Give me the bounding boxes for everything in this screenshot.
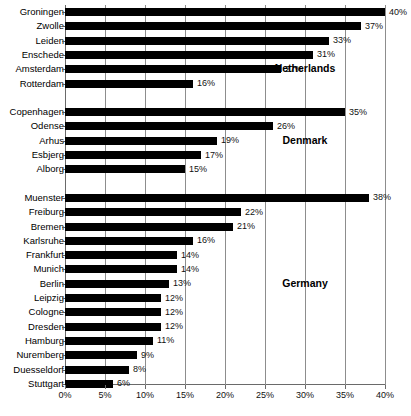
bar-value-label: 12% [165,319,183,333]
category-label: Nuremberg [0,348,64,362]
group-label-germany: Germany [282,277,328,289]
bar-value-label: 26% [277,119,295,133]
bar-row: 31% [65,48,385,62]
bar-value-label: 13% [173,276,191,290]
y-tick [62,355,65,356]
bar-row: 40% [65,5,385,19]
bar-row: 16% [65,234,385,248]
bar-chart: GroningenZwolleLeidenEnschedeAmsterdamRo… [0,0,411,416]
bar [65,208,241,216]
bar [65,151,201,159]
x-axis-tick-label: 20% [205,390,245,400]
bar-value-label: 22% [245,205,263,219]
x-axis-tick-mark [65,385,66,389]
bar-row: 19% [65,134,385,148]
category-label: Odense [0,119,64,133]
x-axis-tick-label: 30% [285,390,325,400]
y-tick [62,12,65,13]
bar [65,337,153,345]
bar [65,366,129,374]
bar [65,8,385,16]
bar-row: 14% [65,248,385,262]
bar-value-label: 21% [237,219,255,233]
y-tick [62,312,65,313]
x-axis-tick-mark [345,385,346,389]
y-tick [62,84,65,85]
bar-value-label: 6% [117,376,130,390]
bar-row: 12% [65,291,385,305]
y-tick [62,241,65,242]
bar-value-label: 8% [133,362,146,376]
x-axis-tick-label: 0% [45,390,85,400]
category-label: Alborg [0,162,64,176]
x-axis-tick-label: 5% [85,390,125,400]
bar-row: 22% [65,205,385,219]
category-label: Munich [0,262,64,276]
bar-row: 27% [65,62,385,76]
y-tick [62,212,65,213]
bar [65,22,361,30]
x-axis-tick-mark [305,385,306,389]
bar [65,351,137,359]
category-label: Arhus [0,134,64,148]
y-tick [62,370,65,371]
category-label: Frankfurt [0,248,64,262]
bar-value-label: 40% [389,5,407,19]
bar [65,37,329,45]
bar-row: 33% [65,34,385,48]
bar-row: 13% [65,277,385,291]
bar [65,108,345,116]
category-label: Groningen [0,5,64,19]
bar [65,280,169,288]
bar [65,51,313,59]
bar [65,223,233,231]
bar-row: 37% [65,19,385,33]
bar-value-label: 15% [189,162,207,176]
x-axis-tick-label: 10% [125,390,165,400]
y-tick [62,298,65,299]
y-tick [62,55,65,56]
category-label: Zwolle [0,19,64,33]
bar-value-label: 31% [317,47,335,61]
y-tick [62,327,65,328]
bar-row: 12% [65,305,385,319]
y-tick [62,341,65,342]
category-label: Stuttgart [0,377,64,391]
y-tick [62,126,65,127]
x-axis-tick-mark [385,385,386,389]
x-axis-tick-label: 35% [325,390,365,400]
bar-value-label: 9% [141,348,154,362]
category-label: Dresden [0,320,64,334]
bar-value-label: 38% [373,190,391,204]
bar [65,237,193,245]
x-axis-tick-mark [145,385,146,389]
plot-area: 40%37%33%31%27%16%35%26%19%17%15%38%22%2… [65,5,385,385]
category-label: Cologne [0,305,64,319]
bar [65,251,177,259]
bar-row: 14% [65,262,385,276]
bar-row: 21% [65,220,385,234]
bar-value-label: 37% [365,19,383,33]
bar-value-label: 12% [165,305,183,319]
category-label: Esbjerg [0,148,64,162]
bar [65,137,217,145]
bar-row: 16% [65,77,385,91]
y-tick [62,227,65,228]
category-label: Hamburg [0,334,64,348]
category-label: Duesseldorf [0,363,64,377]
group-label-denmark: Denmark [283,134,328,146]
group-label-netherlands: Netherlands [275,62,336,74]
bar-value-label: 11% [157,333,174,347]
y-tick [62,284,65,285]
x-axis-tick-label: 25% [245,390,285,400]
bar [65,323,161,331]
bar [65,80,193,88]
bar [65,122,273,130]
bar-row: 35% [65,105,385,119]
category-label: Amsterdam [0,62,64,76]
bar-row: 11% [65,334,385,348]
x-axis-tick-mark [225,385,226,389]
x-axis-tick-mark [265,385,266,389]
y-tick [62,169,65,170]
y-tick [62,26,65,27]
